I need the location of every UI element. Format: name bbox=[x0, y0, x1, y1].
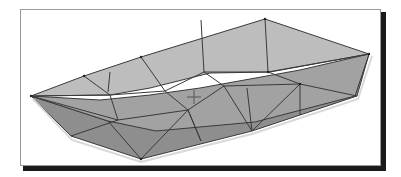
hull-wireframe bbox=[0, 0, 401, 177]
